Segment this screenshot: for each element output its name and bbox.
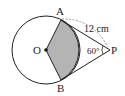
geometry-diagram: A B O P 12 cm 60° (0, 0, 125, 96)
label-p: P (111, 44, 117, 56)
label-o: O (33, 44, 41, 56)
shaded-sector (46, 20, 79, 80)
label-b: B (57, 82, 64, 94)
label-a: A (56, 5, 64, 17)
center-point-o (44, 48, 48, 52)
angle-arc (102, 46, 103, 54)
label-angle: 60° (87, 46, 100, 56)
label-length: 12 cm (84, 23, 109, 34)
